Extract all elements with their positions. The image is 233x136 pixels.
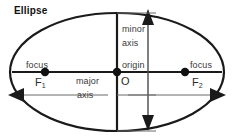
focus-point-f2-marker	[181, 68, 189, 76]
focus-point-label-f1-subscript: 1	[42, 82, 46, 89]
focus-point-label-f2: F2	[192, 77, 203, 89]
ellipse-diagram: Ellipse focus F1 focus F2 origin O minor…	[0, 0, 233, 136]
origin-label: origin	[122, 60, 145, 70]
minor-axis-label-line1: minor	[122, 24, 145, 34]
major-axis-label-line2: axis	[77, 90, 93, 100]
focus-point-label-f1-letter: F	[35, 76, 42, 88]
focus-point-label-f2-subscript: 2	[199, 82, 203, 89]
focus-point-label-f1: F1	[35, 77, 46, 89]
focus-label-left: focus	[26, 60, 48, 70]
origin-point-marker	[113, 68, 121, 76]
major-axis-label-line1: major	[76, 76, 99, 86]
diagram-title: Ellipse	[14, 6, 48, 16]
focus-label-right: focus	[190, 60, 212, 70]
minor-axis-label-line2: axis	[122, 38, 138, 48]
focus-point-label-f2-letter: F	[192, 76, 199, 88]
origin-point-label: O	[121, 76, 130, 86]
